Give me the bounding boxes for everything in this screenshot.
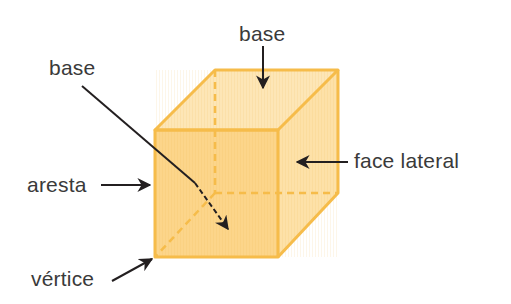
cube-diagram: base base face lateral aresta vértice: [0, 0, 511, 304]
label-base-top: base: [239, 23, 285, 44]
label-base-bottom: base: [49, 57, 95, 78]
label-vertice: vértice: [31, 268, 94, 289]
arrow-vertice: [112, 259, 152, 281]
label-face-lateral: face lateral: [354, 150, 459, 171]
label-aresta: aresta: [27, 174, 87, 195]
